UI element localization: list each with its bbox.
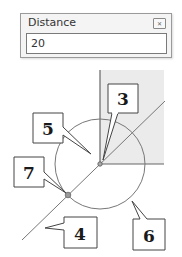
intersection-point xyxy=(65,192,71,198)
callout-label-5: 5 xyxy=(42,119,54,139)
callout-label-7: 7 xyxy=(23,163,35,183)
callout-label-6: 6 xyxy=(143,226,155,246)
callout-label-4: 4 xyxy=(74,224,86,244)
callout-5: 5 xyxy=(33,113,91,154)
callout-7: 7 xyxy=(14,157,66,193)
geometry-diagram: 3 5 7 4 6 xyxy=(0,0,182,257)
callout-4: 4 xyxy=(45,217,97,248)
callout-label-3: 3 xyxy=(117,89,129,109)
center-point xyxy=(98,162,102,166)
callout-6: 6 xyxy=(132,201,165,250)
